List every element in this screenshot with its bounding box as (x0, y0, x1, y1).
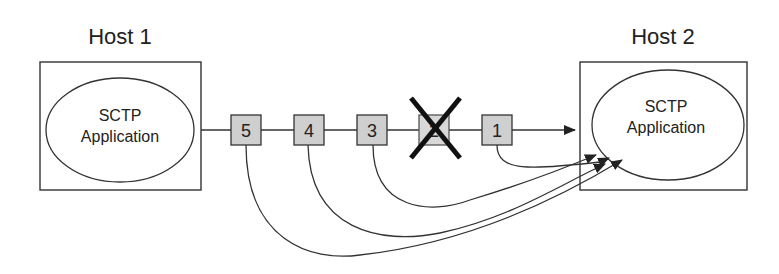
packet-label: 5 (241, 121, 251, 141)
packet-label: 3 (367, 121, 377, 141)
packet-4: 4 (294, 115, 324, 145)
delivery-paths (246, 145, 622, 256)
packet-label: 4 (304, 121, 314, 141)
packet-1: 1 (482, 115, 512, 145)
delivery-path-5 (246, 145, 622, 256)
packet-3: 3 (357, 115, 387, 145)
host-2-app-line1: SCTP (645, 98, 688, 115)
host-1-app-line1: SCTP (99, 107, 142, 124)
packet-5: 5 (231, 115, 261, 145)
host-2-label: Host 2 (631, 24, 695, 49)
host-1: Host 1 SCTP Application (40, 24, 201, 190)
host-2-app-line2: Application (627, 119, 705, 136)
delivery-path-3 (373, 145, 596, 207)
sctp-diagram: Host 1 SCTP Application Host 2 SCTP Appl… (0, 0, 779, 274)
host-2: Host 2 SCTP Application (580, 24, 747, 190)
host-1-box (40, 62, 201, 190)
host-1-label: Host 1 (88, 24, 152, 49)
delivery-path-4 (308, 145, 605, 237)
packet-2-lost: 2 (411, 98, 460, 158)
host-1-app-line2: Application (81, 128, 159, 145)
packet-label: 1 (492, 121, 502, 141)
